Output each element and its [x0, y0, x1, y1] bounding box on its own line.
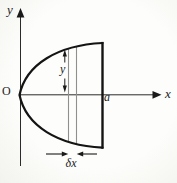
- dx-right-arrowhead-icon: [77, 152, 84, 157]
- x-axis-arrowhead-icon: [153, 91, 162, 99]
- strip-width-label: δx: [62, 157, 80, 169]
- y-axis-arrowhead-icon: [17, 8, 25, 18]
- strip-height-label: y: [60, 63, 65, 75]
- x-axis-label: x: [165, 87, 171, 100]
- figure-canvas: y x O a y δx: [0, 0, 177, 183]
- y-height-arrow-down-icon: [63, 86, 67, 93]
- origin-label: O: [2, 85, 11, 97]
- y-axis-label: y: [7, 3, 13, 16]
- diagram-svg: [0, 0, 177, 183]
- x-intercept-label: a: [104, 91, 110, 103]
